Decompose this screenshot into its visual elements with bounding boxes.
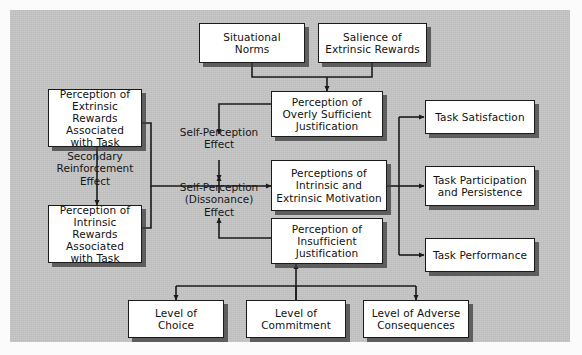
edge-intrinsic-trunk: [142, 186, 151, 228]
node-overly-sufficient-justification: Perception ofOverly SufficientJustificat…: [271, 91, 383, 137]
node-label: Perceptions ofIntrinsic andExtrinsic Mot…: [273, 167, 385, 204]
node-task-satisfaction: Task Satisfaction: [425, 100, 535, 134]
node-label: SituationalNorms: [220, 31, 283, 55]
node-label: Perception ofIntrinsic RewardsAssociated…: [49, 204, 141, 265]
node-label: Level ofChoice: [152, 307, 200, 331]
node-level-of-adverse-consequences: Level of AdverseConsequences: [363, 300, 469, 338]
node-label: Salience ofExtrinsic Rewards: [322, 31, 423, 55]
node-salience-extrinsic-rewards: Salience ofExtrinsic Rewards: [318, 23, 427, 63]
node-insufficient-justification: Perception ofInsufficientJustification: [271, 218, 383, 264]
node-level-of-choice: Level ofChoice: [128, 300, 224, 338]
node-label: Perception ofExtrinsic RewardsAssociated…: [49, 88, 141, 149]
node-level-of-commitment: Level ofCommitment: [246, 300, 346, 338]
edge-salience-to-overly: [327, 63, 372, 77]
node-label: Perception ofOverly SufficientJustificat…: [280, 96, 375, 133]
node-task-performance: Task Performance: [425, 238, 535, 272]
node-task-participation: Task Participationand Persistence: [425, 166, 535, 206]
node-label: Task Performance: [430, 249, 530, 261]
edge-insufficient-to-diss: [219, 218, 271, 238]
node-situational-norms: SituationalNorms: [199, 23, 305, 63]
edge-label-self-perception-dissonance: Self-Perception(Dissonance)Effect: [165, 181, 273, 218]
node-perceptions-of-motivation: Perceptions ofIntrinsic andExtrinsic Mot…: [271, 160, 387, 211]
node-perception-intrinsic-rewards: Perception ofIntrinsic RewardsAssociated…: [48, 205, 142, 263]
node-label: Task Satisfaction: [432, 111, 527, 123]
node-label: Level ofCommitment: [258, 307, 334, 331]
node-perception-extrinsic-rewards: Perception ofExtrinsic RewardsAssociated…: [48, 89, 142, 147]
node-label: Task Participationand Persistence: [430, 174, 529, 198]
diagram-canvas: SituationalNorms Salience ofExtrinsic Re…: [0, 0, 582, 355]
node-label: Level of AdverseConsequences: [369, 307, 464, 331]
node-label: Perception ofInsufficientJustification: [289, 223, 365, 260]
edge-label-self-perception-effect: Self-PerceptionEffect: [165, 126, 273, 151]
edge-label-secondary-reinforcement: SecondaryReinforcementEffect: [43, 150, 147, 187]
edge-norms-to-overly: [252, 63, 327, 77]
